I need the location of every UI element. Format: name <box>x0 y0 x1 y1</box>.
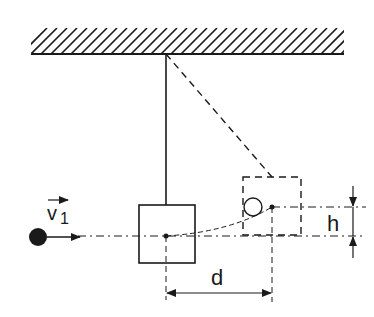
ballistic-pendulum-diagram: d h v 1 <box>0 0 374 317</box>
velocity-symbol: v <box>47 202 57 224</box>
d-label: d <box>211 265 223 290</box>
projectile-ball <box>29 228 47 246</box>
velocity-label: v 1 <box>47 200 69 227</box>
h-label: h <box>327 211 339 236</box>
ceiling-hatching <box>21 28 367 54</box>
velocity-subscript: 1 <box>60 210 69 227</box>
pendulum-string-displaced <box>166 54 272 177</box>
ceiling <box>21 28 367 54</box>
